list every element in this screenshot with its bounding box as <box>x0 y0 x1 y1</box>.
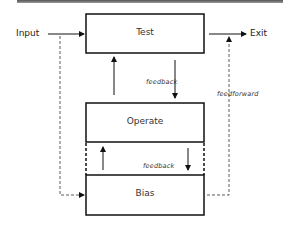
feedback-label-lower: feedback <box>143 162 174 170</box>
feedback-label-upper: feedback <box>146 78 177 86</box>
operate-label: Operate <box>86 116 204 126</box>
feedforward-label: feedforward <box>217 90 259 98</box>
exit-label: Exit <box>250 28 267 38</box>
test-label: Test <box>86 27 204 37</box>
input-to-bias-dashed <box>60 36 84 195</box>
input-label: Input <box>16 28 39 38</box>
bias-to-exit-feedforward <box>207 37 229 195</box>
bias-label: Bias <box>86 188 204 198</box>
